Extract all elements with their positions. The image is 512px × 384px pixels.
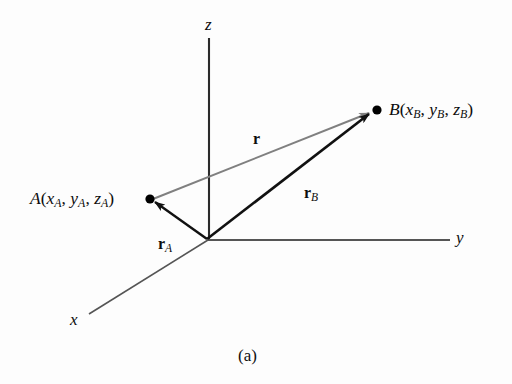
point-a-sub-x: A [54,196,61,210]
point-a-coord-z: z [94,188,101,208]
vector-r-line [153,113,369,199]
vector-rb-line [207,114,369,239]
point-b-name: B [389,99,400,119]
vector-ra-label: rA [158,236,172,252]
point-a-dot [145,194,154,203]
point-b-sub-x: B [413,107,420,121]
point-a-label: A(xA, yA, zA) [30,190,114,208]
point-a-sep-2: , [85,188,94,208]
z-axis-label: z [205,16,212,33]
point-a-close-paren: ) [108,188,114,208]
point-b-sub-z: B [460,107,467,121]
point-a-sub-z: A [101,196,108,210]
figure-caption: (a) [238,346,257,366]
point-a-name: A [30,188,41,208]
point-b-sub-y: B [437,107,444,121]
point-b-label: B(xB, yB, zB) [389,101,473,119]
vector-ra-line [155,202,207,239]
point-b-coord-z: z [453,99,460,119]
vector-rb-subscript: B [311,191,318,203]
point-b-dot [372,105,381,114]
vector-rb-label: rB [304,185,318,201]
point-a-sub-y: A [78,196,85,210]
point-b-close-paren: ) [467,99,473,119]
vector-r-label: r [253,131,260,147]
vector-ra-subscript: A [165,242,172,254]
vector-diagram-figure: z y x A(xA, yA, zA) B(xB, yB, zB) r rA r… [0,0,512,384]
point-b-sep-2: , [444,99,453,119]
point-b-coord-y: y [429,99,437,119]
point-a-coord-y: y [70,188,78,208]
vector-r-symbol: r [253,130,260,147]
x-axis-label: x [70,311,78,328]
y-axis-label: y [456,229,464,246]
x-axis-line [89,240,208,314]
